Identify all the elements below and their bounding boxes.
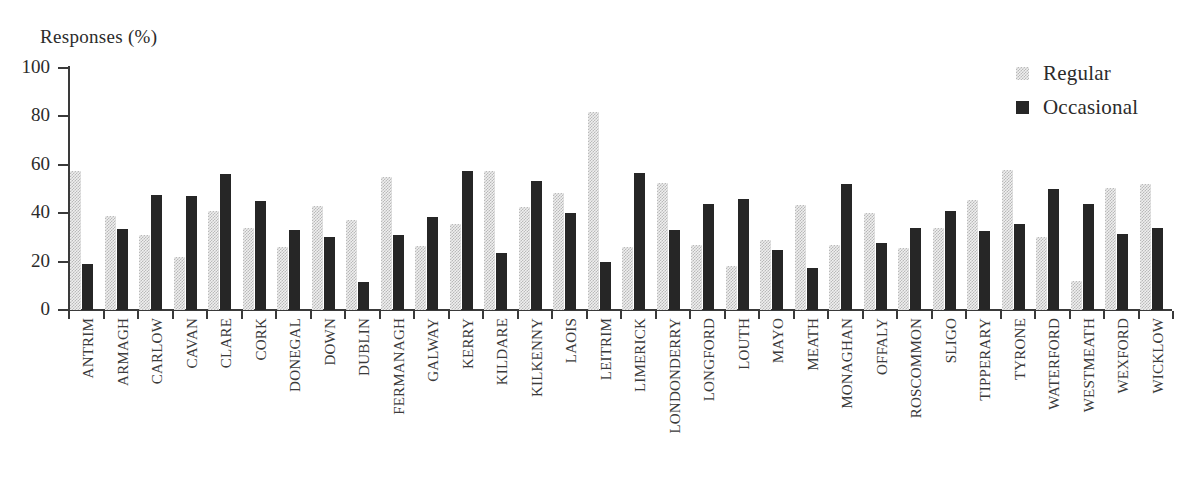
x-tick-label: ANTRIM	[80, 318, 97, 378]
bar-regular	[70, 171, 81, 310]
bar-regular	[760, 240, 771, 310]
bar-occasional	[600, 262, 611, 310]
bar-occasional	[117, 229, 128, 310]
legend-item-occasional[interactable]: Occasional	[1016, 90, 1138, 124]
x-tick	[586, 311, 588, 319]
bar-group	[1140, 68, 1175, 310]
bar-occasional	[496, 253, 507, 310]
bar-occasional	[772, 250, 783, 311]
x-tick-label: OFFALY	[874, 318, 891, 375]
legend-label: Occasional	[1043, 95, 1138, 120]
x-tick	[68, 311, 70, 319]
x-tick-label: CAVAN	[184, 318, 201, 368]
x-tick	[241, 311, 243, 319]
x-tick-label: FERMANAGH	[391, 318, 408, 415]
bar-occasional	[427, 217, 438, 310]
x-tick-label: DOWN	[322, 318, 339, 365]
bar-group	[139, 68, 174, 310]
x-tick-label: CORK	[253, 318, 270, 360]
x-tick-label: WATERFORD	[1046, 318, 1063, 410]
x-tick	[827, 311, 829, 319]
bar-occasional	[1117, 234, 1128, 310]
bar-regular	[519, 207, 530, 310]
bar-regular	[450, 224, 461, 310]
bar-regular	[381, 177, 392, 310]
plot-area	[68, 68, 1172, 310]
x-tick-label: LIMERICK	[632, 318, 649, 392]
bar-regular	[1002, 170, 1013, 310]
bar-occasional	[151, 195, 162, 310]
bar-group	[864, 68, 899, 310]
bar-group	[312, 68, 347, 310]
bar-regular	[657, 183, 668, 310]
bar-group	[243, 68, 278, 310]
x-tick	[379, 311, 381, 319]
bar-occasional	[358, 282, 369, 310]
x-tick	[793, 311, 795, 319]
x-tick-label: CARLOW	[149, 318, 166, 384]
x-tick-label: MEATH	[805, 318, 822, 371]
x-tick	[413, 311, 415, 319]
x-tick-label: KILKENNY	[529, 318, 546, 397]
bar-occasional	[82, 264, 93, 310]
x-tick	[655, 311, 657, 319]
x-tick	[1034, 311, 1036, 319]
y-tick-label: 100	[6, 57, 50, 76]
x-tick	[931, 311, 933, 319]
x-tick	[517, 311, 519, 319]
bar-regular	[967, 200, 978, 310]
x-tick-label: ARMAGH	[115, 318, 132, 386]
x-tick	[1000, 311, 1002, 319]
bar-group	[346, 68, 381, 310]
x-tick-label: LONDONDERRY	[667, 318, 684, 434]
bar-group	[415, 68, 450, 310]
x-tick-label: CLARE	[218, 318, 235, 368]
legend-item-regular[interactable]: Regular	[1016, 56, 1138, 90]
bar-chart: Responses (%) 020406080100 ANTRIMARMAGHC…	[0, 0, 1192, 483]
legend-swatch-icon	[1016, 101, 1029, 114]
x-tick-label: KILDARE	[494, 318, 511, 385]
x-tick	[1138, 311, 1140, 319]
bar-regular	[346, 220, 357, 310]
bar-regular	[864, 213, 875, 310]
bar-occasional	[945, 211, 956, 310]
legend-swatch-icon	[1016, 67, 1029, 80]
bar-group	[105, 68, 140, 310]
x-tick	[103, 311, 105, 319]
x-tick-label: LAOIS	[563, 318, 580, 363]
bar-group	[208, 68, 243, 310]
y-tick-label: 60	[6, 154, 50, 173]
bar-group	[450, 68, 485, 310]
bar-group	[760, 68, 795, 310]
x-tick-label: LONGFORD	[701, 318, 718, 401]
bar-group	[484, 68, 519, 310]
legend-label: Regular	[1043, 61, 1111, 86]
x-tick	[1069, 311, 1071, 319]
bar-occasional	[841, 184, 852, 310]
y-tick-label: 0	[6, 299, 50, 318]
y-tick-label: 40	[6, 202, 50, 221]
x-tick	[862, 311, 864, 319]
x-tick-label: DUBLIN	[356, 318, 373, 376]
bar-occasional	[910, 228, 921, 310]
bar-group	[933, 68, 968, 310]
bar-group	[70, 68, 105, 310]
x-tick	[896, 311, 898, 319]
x-tick	[1103, 311, 1105, 319]
bar-regular	[1036, 237, 1047, 310]
bar-occasional	[1083, 204, 1094, 310]
bar-occasional	[531, 181, 542, 310]
bar-occasional	[393, 235, 404, 310]
x-tick	[344, 311, 346, 319]
bar-occasional	[255, 201, 266, 310]
bar-group	[795, 68, 830, 310]
bar-occasional	[1152, 228, 1163, 310]
bar-regular	[139, 235, 150, 310]
bar-group	[898, 68, 933, 310]
bar-occasional	[738, 199, 749, 310]
x-tick	[965, 311, 967, 319]
x-tick	[482, 311, 484, 319]
bar-regular	[726, 266, 737, 310]
x-tick	[689, 311, 691, 319]
x-tick	[137, 311, 139, 319]
